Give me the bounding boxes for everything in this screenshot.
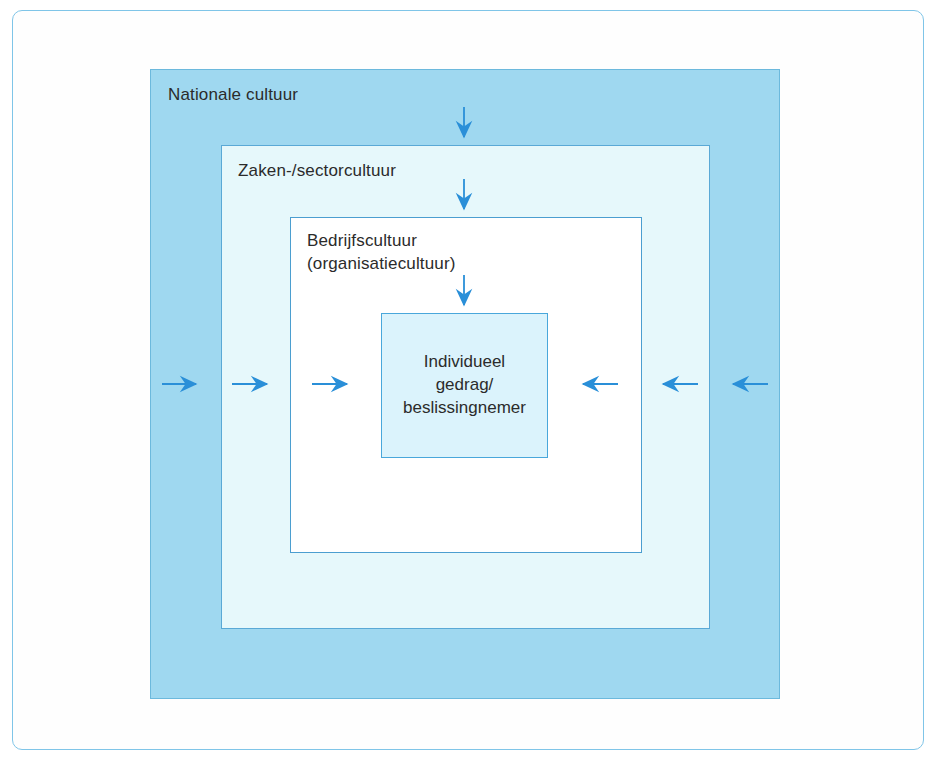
label-national-culture: Nationale cultuur [168, 84, 298, 107]
label-company-culture: Bedrijfscultuur (organisatiecultuur) [307, 230, 456, 275]
label-sector-culture: Zaken-/sectorcultuur [238, 160, 396, 183]
diagram-canvas: Nationale cultuur Zaken-/sectorcultuur B… [0, 0, 940, 775]
label-individual-behaviour: Individueel gedrag/ beslissingnemer [381, 313, 548, 458]
